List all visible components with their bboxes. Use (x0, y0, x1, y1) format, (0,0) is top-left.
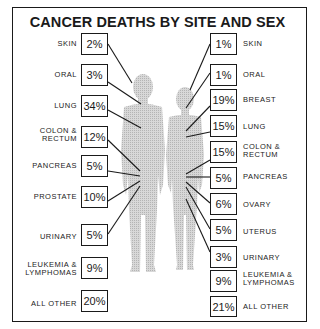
female-value-breast: 19% (210, 89, 237, 111)
female-label-ovary: OVARY (243, 201, 271, 209)
female-value-uterus: 5% (210, 219, 237, 241)
male-value-urinary: 5% (81, 224, 108, 246)
female-value-all-other: 21% (210, 296, 237, 317)
female-label-breast: BREAST (243, 96, 276, 104)
male-label-colon-rectum: COLON &RECTUM (40, 127, 77, 143)
male-label-urinary: URINARY (40, 233, 77, 241)
female-value-pancreas: 5% (210, 167, 237, 189)
male-value-oral: 3% (81, 64, 108, 86)
male-label-leukemia-lymphomas: LEUKEMIA &LYMPHOMAS (25, 261, 77, 277)
female-label-colon-rectum: COLON &RECTUM (243, 143, 280, 159)
male-label-lymphomas: LYMPHOMAS (25, 268, 77, 277)
female-label-lung: LUNG (243, 123, 266, 131)
female-value-ovary: 6% (210, 193, 237, 215)
male-value-colon-rectum: 12% (81, 126, 108, 148)
female-label-uterus: UTERUS (243, 228, 277, 236)
male-label-rectum: RECTUM (42, 134, 77, 143)
female-value-leukemia-lymphomas: 9% (210, 270, 237, 292)
male-label-pancreas: PANCREAS (32, 162, 77, 170)
male-value-pancreas: 5% (81, 155, 108, 177)
female-label-pancreas: PANCREAS (243, 173, 288, 181)
male-value-prostate: 10% (81, 186, 108, 208)
male-label-oral: ORAL (55, 71, 77, 79)
male-value-lung: 34% (81, 95, 108, 117)
female-label-oral: ORAL (243, 71, 265, 79)
male-label-prostate: PROSTATE (34, 193, 77, 201)
female-value-lung: 15% (210, 115, 237, 137)
male-silhouette-icon (121, 74, 165, 272)
male-value-all-other: 20% (81, 290, 108, 312)
female-label-all-other: ALL OTHER (243, 303, 289, 311)
male-label-all-other: ALL OTHER (31, 300, 77, 308)
female-value-skin: 1% (210, 33, 237, 55)
female-label-leukemia-lymphomas: LEUKEMIA &LYMPHOMAS (243, 271, 295, 287)
female-value-urinary: 3% (210, 246, 237, 268)
female-label-lymphomas: LYMPHOMAS (243, 278, 295, 287)
female-value-colon-rectum: 15% (210, 141, 237, 163)
female-silhouette-icon (166, 87, 204, 270)
female-label-skin: SKIN (243, 40, 263, 48)
female-label-rectum: RECTUM (243, 150, 278, 159)
female-label-urinary: URINARY (243, 254, 280, 262)
male-value-leukemia-lymphomas: 9% (81, 257, 108, 279)
male-label-lung: LUNG (54, 102, 77, 110)
female-value-oral: 1% (210, 64, 237, 86)
male-value-skin: 2% (81, 33, 108, 55)
male-label-skin: SKIN (57, 40, 77, 48)
